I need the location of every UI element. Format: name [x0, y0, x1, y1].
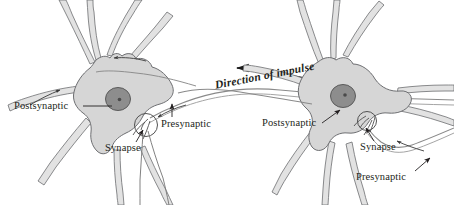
label-right-postsynaptic: Postsynaptic	[262, 118, 316, 129]
right-neuron-nucleus	[331, 85, 356, 108]
leader-line-right-presynaptic	[415, 158, 430, 171]
right-neuron-nucleolus	[343, 93, 347, 97]
label-left-presynaptic: Presynaptic	[161, 119, 211, 130]
left-neuron-nucleolus	[118, 98, 122, 102]
neuron-synapse-diagram: Postsynaptic Synapse Presynaptic Postsyn…	[0, 0, 454, 205]
label-right-presynaptic: Presynaptic	[356, 172, 406, 183]
label-left-synapse: Synapse	[105, 143, 141, 154]
label-left-postsynaptic: Postsynaptic	[14, 101, 68, 112]
label-right-synapse: Synapse	[360, 142, 396, 153]
right-neuron	[178, 0, 454, 205]
